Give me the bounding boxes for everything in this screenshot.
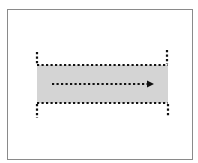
diagram-canvas [0,0,198,163]
